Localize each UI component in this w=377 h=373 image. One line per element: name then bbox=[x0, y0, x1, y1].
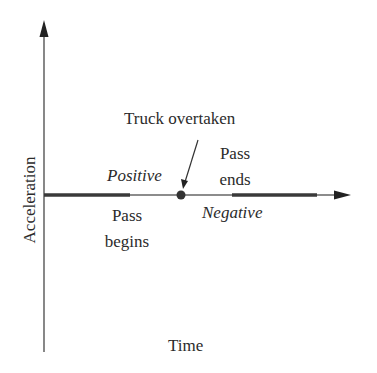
truck-overtaken-dot bbox=[177, 191, 186, 200]
pass-ends-line2: ends bbox=[214, 167, 256, 193]
pass-begins-line1: Pass bbox=[99, 203, 155, 229]
pass-ends-label: Pass ends bbox=[214, 141, 256, 193]
y-axis-arrowhead-icon bbox=[40, 20, 49, 37]
acceleration-time-diagram bbox=[0, 0, 377, 373]
y-axis-label: Acceleration bbox=[20, 157, 40, 244]
pointer-arrow-line bbox=[185, 140, 198, 182]
negative-label: Negative bbox=[202, 204, 262, 221]
x-axis-label: Time bbox=[168, 337, 203, 354]
positive-label: Positive bbox=[107, 167, 162, 184]
x-axis-arrowhead-icon bbox=[334, 191, 351, 200]
pass-ends-line1: Pass bbox=[214, 141, 256, 167]
pass-begins-label: Pass begins bbox=[99, 203, 155, 255]
pointer-arrowhead-icon bbox=[181, 179, 188, 189]
truck-overtaken-label: Truck overtaken bbox=[124, 110, 235, 127]
pass-begins-line2: begins bbox=[99, 229, 155, 255]
